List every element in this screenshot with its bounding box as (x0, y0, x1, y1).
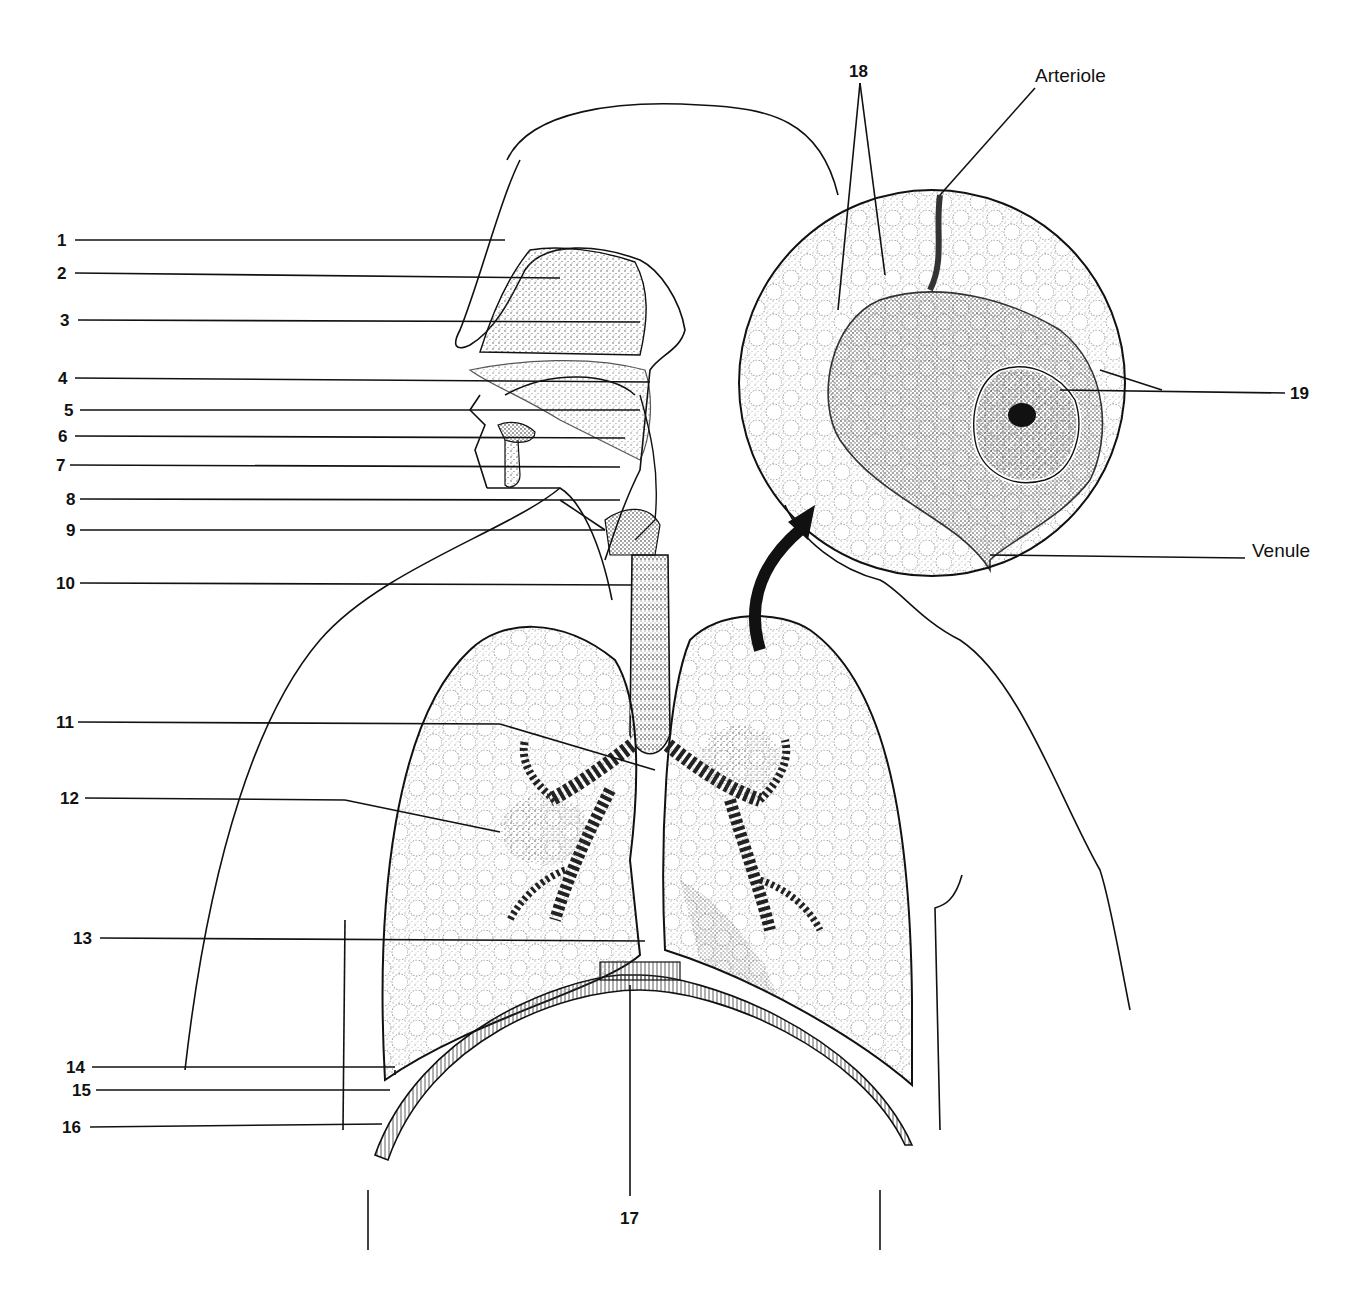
right-lung (663, 616, 912, 1085)
label-19: 19 (1290, 385, 1309, 402)
respiratory-diagram (0, 0, 1372, 1297)
label-17: 17 (620, 1210, 639, 1227)
label-5: 5 (64, 402, 73, 419)
label-13: 13 (73, 930, 92, 947)
label-16: 16 (62, 1119, 81, 1136)
label-15: 15 (72, 1082, 91, 1099)
label-9: 9 (66, 522, 75, 539)
label-2: 2 (57, 265, 66, 282)
label-3: 3 (60, 312, 69, 329)
label-11: 11 (56, 714, 74, 731)
label-7: 7 (56, 457, 65, 474)
label-arteriole: Arteriole (1035, 66, 1106, 85)
label-8: 8 (66, 491, 75, 508)
label-4: 4 (58, 370, 67, 387)
trachea (630, 555, 670, 754)
label-14: 14 (66, 1059, 85, 1076)
label-18: 18 (849, 63, 868, 80)
label-1: 1 (57, 232, 66, 249)
label-venule: Venule (1252, 541, 1310, 560)
label-10: 10 (56, 575, 75, 592)
label-12: 12 (60, 790, 79, 807)
label-6: 6 (58, 428, 67, 445)
leader-lines (70, 83, 1285, 1196)
